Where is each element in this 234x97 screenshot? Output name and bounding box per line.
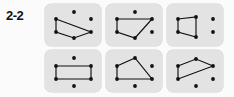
quadrilateral-outline <box>117 58 152 79</box>
dot-bottom-center <box>133 36 137 40</box>
dot-top-right <box>89 64 93 68</box>
dot-bottom-left <box>115 30 119 34</box>
rectangle-outline <box>56 66 91 79</box>
dot-top-left <box>176 17 180 21</box>
dot-bottom-left <box>54 30 58 34</box>
shape-panel-5[interactable] <box>106 50 162 92</box>
shape-canvas-5 <box>106 50 162 92</box>
shape-panel-4[interactable] <box>45 50 101 92</box>
dot-top-center <box>133 10 137 14</box>
dot-bottom-right <box>211 77 215 81</box>
dot-bottom-center <box>72 36 76 40</box>
shape-canvas-2 <box>106 4 162 46</box>
shape-panel-1[interactable] <box>45 4 101 46</box>
shape-panel-6[interactable] <box>167 50 223 92</box>
shape-canvas-6 <box>167 50 223 92</box>
quadrilateral-outline <box>117 19 152 38</box>
dot-top-left <box>176 64 180 68</box>
dot-top-left <box>115 64 119 68</box>
exercise-number-label: 2-2 <box>6 9 23 23</box>
dot-top-center <box>72 56 76 60</box>
shape-canvas-3 <box>167 4 223 46</box>
dot-bottom-center <box>72 84 76 88</box>
dot-bottom-center <box>133 84 137 88</box>
panel-grid <box>45 4 223 94</box>
dot-top-center <box>133 56 137 60</box>
dot-bottom-right <box>150 77 154 81</box>
parallelogram-outline <box>178 59 213 79</box>
dot-bottom-left <box>115 77 119 81</box>
shape-panel-3[interactable] <box>167 4 223 46</box>
dot-bottom-left <box>54 77 58 81</box>
dot-bottom-right <box>89 30 93 34</box>
dot-top-right <box>89 17 93 21</box>
shape-panel-2[interactable] <box>106 4 162 46</box>
dot-bottom-center <box>194 84 198 88</box>
shape-canvas-4 <box>45 50 101 92</box>
shape-canvas-1 <box>45 4 101 46</box>
dot-top-right <box>211 17 215 21</box>
dot-top-center <box>194 57 198 61</box>
dot-top-center <box>72 10 76 14</box>
quadrilateral-outline <box>56 19 91 38</box>
dot-top-left <box>54 64 58 68</box>
dot-top-right <box>150 64 154 68</box>
dot-top-left <box>54 17 58 21</box>
dot-bottom-right <box>150 30 154 34</box>
figure-root: 2-2 <box>0 0 234 97</box>
dot-bottom-left <box>176 30 180 34</box>
dot-bottom-center <box>194 35 198 39</box>
dot-bottom-right <box>89 77 93 81</box>
dot-top-left <box>115 17 119 21</box>
dot-bottom-right <box>211 30 215 34</box>
dot-top-right <box>150 17 154 21</box>
quadrilateral-outline <box>178 17 196 37</box>
dot-top-right <box>211 64 215 68</box>
dot-bottom-left <box>176 77 180 81</box>
dot-top-center <box>194 15 198 19</box>
